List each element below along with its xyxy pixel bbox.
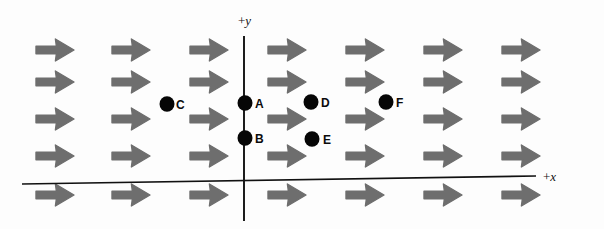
point-label-f: F: [396, 97, 403, 109]
y-axis-label: +y: [238, 14, 251, 27]
field-arrow: [112, 71, 150, 93]
arrow-glyph-2-1: [112, 108, 150, 130]
arrow-glyph-1-6: [502, 71, 540, 93]
point-marker-c: [160, 96, 175, 111]
field-arrow: [424, 39, 462, 61]
field-arrow: [424, 71, 462, 93]
point-label-a: A: [255, 98, 264, 110]
point-marker-d: [304, 94, 319, 109]
field-arrow: [190, 39, 228, 61]
point-label-b: B: [255, 133, 264, 145]
point-label-c: C: [176, 99, 185, 111]
field-arrow: [268, 39, 306, 61]
field-arrow: [36, 108, 74, 130]
field-arrow: [346, 108, 384, 130]
point-marker-a: [238, 95, 253, 110]
arrow-glyph-4-6: [502, 184, 540, 206]
field-arrow: [112, 145, 150, 167]
arrow-glyph-3-6: [502, 145, 540, 167]
arrow-glyph-2-2: [190, 108, 228, 130]
field-arrow: [502, 145, 540, 167]
field-canvas: [0, 0, 604, 229]
point-marker-b: [238, 130, 253, 145]
arrow-glyph-4-1: [112, 184, 150, 206]
field-arrow: [36, 145, 74, 167]
field-arrow: [346, 184, 384, 206]
arrow-glyph-2-5: [424, 108, 462, 130]
field-arrow: [424, 108, 462, 130]
arrow-glyph-1-3: [268, 71, 306, 93]
field-arrow: [190, 184, 228, 206]
arrow-glyph-1-2: [190, 71, 228, 93]
field-arrow: [346, 145, 384, 167]
field-arrow: [502, 108, 540, 130]
field-arrow: [112, 39, 150, 61]
field-arrow: [36, 71, 74, 93]
arrow-glyph-0-3: [268, 39, 306, 61]
arrow-glyph-3-4: [346, 145, 384, 167]
vector-field-figure: CADFBE+y+x: [0, 0, 604, 229]
arrow-glyph-4-2: [190, 184, 228, 206]
point-label-d: D: [321, 97, 330, 109]
x-axis-line: [22, 176, 536, 184]
arrow-glyph-4-4: [346, 184, 384, 206]
arrow-glyph-1-1: [112, 71, 150, 93]
field-arrow: [268, 108, 306, 130]
arrow-glyph-4-0: [36, 184, 74, 206]
arrow-glyph-2-0: [36, 108, 74, 130]
arrow-glyph-0-2: [190, 39, 228, 61]
field-arrow: [112, 108, 150, 130]
arrow-glyph-0-5: [424, 39, 462, 61]
arrow-glyph-2-3: [268, 108, 306, 130]
point-marker-e: [305, 131, 320, 146]
arrow-glyph-4-5: [424, 184, 462, 206]
field-arrow: [190, 145, 228, 167]
arrow-glyph-2-6: [502, 108, 540, 130]
field-arrow: [268, 71, 306, 93]
arrow-glyph-4-3: [268, 184, 306, 206]
arrow-glyph-2-4: [346, 108, 384, 130]
x-axis-label: +x: [543, 170, 556, 183]
point-marker-f: [379, 94, 394, 109]
arrow-glyph-0-0: [36, 39, 74, 61]
arrow-glyph-3-0: [36, 145, 74, 167]
field-arrow: [502, 39, 540, 61]
field-arrow: [502, 71, 540, 93]
field-arrow: [346, 71, 384, 93]
field-arrow: [268, 184, 306, 206]
arrow-glyph-0-4: [346, 39, 384, 61]
arrow-glyph-3-1: [112, 145, 150, 167]
point-label-e: E: [323, 134, 331, 146]
arrow-glyph-0-1: [112, 39, 150, 61]
arrow-glyph-1-4: [346, 71, 384, 93]
arrow-glyph-3-5: [424, 145, 462, 167]
field-arrow: [346, 39, 384, 61]
field-arrow: [190, 108, 228, 130]
field-arrow: [36, 184, 74, 206]
field-arrow: [36, 39, 74, 61]
field-arrow: [190, 71, 228, 93]
arrow-glyph-3-3: [268, 145, 306, 167]
arrow-glyph-1-0: [36, 71, 74, 93]
field-arrow: [424, 145, 462, 167]
arrow-glyph-0-6: [502, 39, 540, 61]
field-arrow: [424, 184, 462, 206]
field-arrow: [112, 184, 150, 206]
field-arrow: [502, 184, 540, 206]
field-arrow: [268, 145, 306, 167]
arrow-glyph-1-5: [424, 71, 462, 93]
arrow-glyph-3-2: [190, 145, 228, 167]
